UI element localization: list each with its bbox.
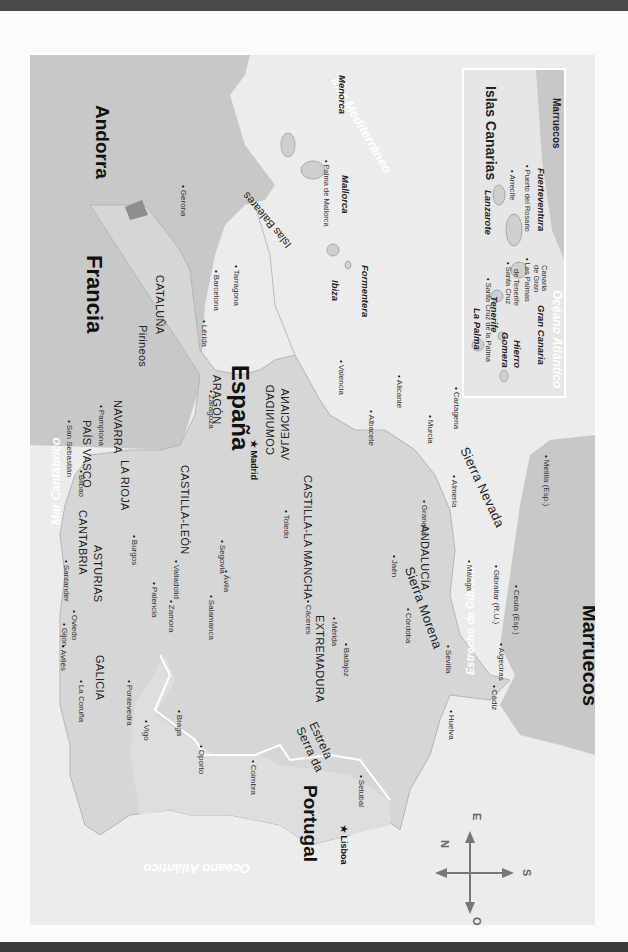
city-bilbao: Bilbao xyxy=(77,470,85,497)
city-las-palmas: Las Palmas xyxy=(524,258,532,302)
city-valencia: Valencia xyxy=(337,360,345,395)
island-lanzarote: Lanzarote xyxy=(484,190,494,235)
city-las-palmas-line2: de Gran xyxy=(533,265,541,292)
city-salamanca: Salamanca xyxy=(207,595,215,640)
canarias-title: Islas Canarias xyxy=(484,86,498,180)
city-granada: Granada xyxy=(420,500,428,536)
city-santa-cruz-tenerife-line2: de Tenerife xyxy=(513,269,521,306)
city-alicante: Alicante xyxy=(395,375,403,408)
city-murcia: Murcia xyxy=(426,415,434,444)
city-coimbra: Coimbra xyxy=(249,760,257,795)
region-cataluna: CATALUÑA xyxy=(154,275,165,334)
island-la-palma: La Palma xyxy=(473,308,483,350)
region-comunidad: COMUNIDAD xyxy=(264,384,275,455)
city-zaragoza: Zaragoza xyxy=(207,390,215,429)
island-hierro: Hierro xyxy=(513,340,523,368)
city-oporto: Oporto xyxy=(197,745,205,774)
city-pamplona: Pamplona xyxy=(97,405,105,446)
capital-lisboa: ★ Lisboa xyxy=(339,825,348,865)
country-andorra: Andorra xyxy=(93,105,112,179)
city-santa-cruz-la-palma: Santa Cruz de la Palma xyxy=(485,278,493,362)
city-zamora: Zamora xyxy=(167,600,175,632)
city-huelva: Huelva xyxy=(447,710,455,740)
city-palencia: Palencia xyxy=(150,582,158,618)
star-icon: ★ xyxy=(249,440,259,451)
country-portugal: Portugal xyxy=(301,785,320,862)
country-marruecos: Marruecos xyxy=(580,605,595,706)
compass-e: E xyxy=(471,813,482,820)
city-gerona: Gerona xyxy=(179,185,187,217)
compass-n: N xyxy=(439,840,450,848)
star-icon: ★ xyxy=(339,825,349,836)
city-lerida: Lérida xyxy=(200,320,208,347)
city-palma-de-mallorca: Palma de Mallorca xyxy=(323,160,331,227)
canarias-inset: Islas Canarias Lanzarote Arrecife Puerto… xyxy=(462,68,566,398)
region-castilla-leon: CASTILLA-LEÓN xyxy=(179,465,190,554)
city-caceres: Cáceres xyxy=(304,600,312,635)
city-malaga: Málaga xyxy=(465,560,473,591)
city-santander: Santander xyxy=(62,560,70,602)
region-asturias: ASTURIAS xyxy=(92,545,103,602)
island-fuerteventura: Fuerteventura xyxy=(537,168,547,231)
top-bar xyxy=(0,0,628,11)
inset-country-morocco: Marruecos xyxy=(551,98,561,149)
city-puerto-del-rosario: Puerto del Rosario xyxy=(524,165,532,232)
city-cordoba: Córdoba xyxy=(404,608,412,644)
compass-o: O xyxy=(471,917,482,925)
mountain-pirineos: Pirineos xyxy=(137,325,148,367)
region-valenciana: VALENCIANA xyxy=(279,388,290,460)
city-braga: Braga xyxy=(175,710,183,736)
island-formentera: Formentera xyxy=(361,265,371,317)
city-segovia: Segovia xyxy=(218,540,226,574)
region-navarra: NAVARRA xyxy=(112,400,123,454)
city-vigo: Vigo xyxy=(142,720,150,741)
island-mallorca: Mallorca xyxy=(341,175,351,214)
city-barcelona: Barcelona xyxy=(212,270,220,311)
sea-atlantico: Océano Atlántico xyxy=(144,862,250,875)
city-gijon: Gijón xyxy=(60,623,68,647)
city-merida: Mérida xyxy=(330,617,338,646)
country-espana: España xyxy=(228,365,252,450)
city-las-palmas-line3: Canaria xyxy=(541,265,549,291)
city-arrecife: Arrecife xyxy=(509,170,517,200)
region-la-rioja: LA RIOJA xyxy=(119,460,130,511)
city-setubal: Setúbal xyxy=(357,775,365,807)
city-valladolid: Valladolid xyxy=(172,560,180,599)
city-melilla: Melilla (Esp.) xyxy=(542,455,550,506)
city-aviles: Avilés xyxy=(59,645,67,671)
sea-cantabrico: Mar Cantábrico xyxy=(50,438,62,525)
sea-atlantico-inset: Océano Atlántico xyxy=(551,290,563,388)
city-tarragona: Tarragona xyxy=(232,265,240,306)
city-albacete: Albacete xyxy=(367,410,375,446)
city-cadiz: Cádiz xyxy=(490,685,498,710)
region-galicia: GALICIA xyxy=(94,655,105,701)
compass-s: S xyxy=(521,869,532,876)
map-frame: Islas Canarias Lanzarote Arrecife Puerto… xyxy=(30,55,595,925)
city-san-sebastian: San Sebastián xyxy=(65,420,73,477)
region-extremadura: EXTREMADURA xyxy=(314,615,325,703)
city-badajoz: Badajoz xyxy=(342,643,350,677)
city-cartagena: Cartagena xyxy=(452,387,460,429)
city-ceuta: Ceuta (Esp.) xyxy=(512,585,520,635)
island-menorca: Menorca xyxy=(338,75,348,114)
city-santa-cruz-tenerife: Santa Cruz xyxy=(505,262,513,304)
island-ibiza: Ibiza xyxy=(331,280,341,301)
city-sevilla: Sevilla xyxy=(444,645,452,673)
city-gibraltar: Gibraltar (R.U.) xyxy=(492,565,500,624)
region-castilla-la-mancha: CASTILLA-LA MANCHA xyxy=(302,475,313,600)
bottom-bar xyxy=(0,942,628,952)
capital-madrid: ★ Madrid xyxy=(249,440,258,480)
city-jaen: Jaén xyxy=(390,555,398,577)
city-pontevedra: Pontevedra xyxy=(125,680,133,726)
city-la-coruna: La Coruña xyxy=(77,680,85,722)
city-toledo: Toledo xyxy=(282,510,290,538)
country-francia: Francia xyxy=(83,255,105,333)
compass-rose-icon xyxy=(425,825,515,915)
city-almeria: Almería xyxy=(450,475,458,507)
city-burgos: Burgos xyxy=(130,535,138,565)
city-algeciras: Algeciras xyxy=(497,643,505,681)
city-oviedo: Oviedo xyxy=(70,610,78,640)
region-cantabria: CANTABRIA xyxy=(77,510,88,575)
island-gran-canaria: Gran Canaria xyxy=(537,305,547,365)
island-gomera: Gomera xyxy=(501,332,511,368)
